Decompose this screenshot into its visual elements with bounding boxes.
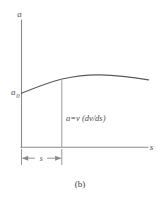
x-axis-label: s (150, 142, 154, 152)
dimension-label-s: s (40, 154, 43, 163)
dimension-arrowhead-left (22, 156, 28, 161)
figure-caption: (b) (75, 179, 86, 189)
a0-subscript: 0 (16, 92, 20, 99)
y-axis-label: a (17, 9, 22, 19)
dimension-arrowhead-right (55, 156, 61, 161)
figure-container: a s a 0 a=v (dv/ds) s (b) (0, 0, 159, 200)
axes-group (21, 20, 148, 148)
curve-group (22, 75, 149, 93)
curve-equation-label: a=v (dv/ds) (66, 113, 106, 123)
initial-acceleration-label: a 0 (11, 87, 20, 99)
dimension-group: s (22, 149, 62, 165)
acceleration-vs-position-diagram: a s a 0 a=v (dv/ds) s (b) (0, 0, 159, 200)
acceleration-curve (22, 75, 149, 93)
